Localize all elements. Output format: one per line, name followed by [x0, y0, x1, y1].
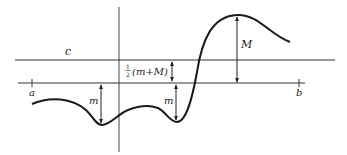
label-m-left: m	[89, 95, 98, 106]
label-a: a	[29, 87, 35, 98]
half-expression: (m+M)	[132, 66, 168, 77]
label-b: b	[296, 87, 302, 98]
half-denominator: 2	[126, 71, 130, 78]
diagram-figure: M m m 1 2 (m+M) c a b	[0, 0, 347, 155]
half-numerator: 1	[126, 63, 130, 70]
label-half-sum: 1 2 (m+M)	[126, 63, 169, 78]
label-c: c	[65, 45, 71, 58]
label-m-right: m	[164, 95, 173, 106]
label-M: M	[240, 38, 253, 51]
